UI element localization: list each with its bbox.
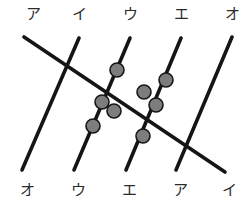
- top-label-2: ウ: [123, 5, 138, 23]
- node-left-upper: [95, 95, 109, 109]
- top-label-1: イ: [72, 5, 87, 23]
- edges-group: [22, 37, 232, 172]
- bottom-labels-group: オウエアイ: [20, 181, 237, 199]
- bottom-label-1: ウ: [71, 181, 86, 199]
- node-upper-center: [110, 63, 124, 77]
- line-b-top-second-to-bottom-left: [22, 38, 79, 170]
- line-e-top-fifth-to-bottom-fourth: [176, 37, 232, 170]
- line-a-top-left-to-bottom-right: [24, 37, 225, 172]
- node-lower-left: [86, 119, 100, 133]
- top-label-4: オ: [225, 5, 240, 23]
- top-labels-group: アイウエオ: [26, 5, 240, 23]
- bottom-label-0: オ: [20, 181, 35, 199]
- bottom-label-2: エ: [122, 181, 137, 199]
- top-label-3: エ: [174, 5, 189, 23]
- bottom-label-3: ア: [173, 181, 188, 199]
- node-center: [137, 85, 151, 99]
- node-right-lower: [149, 98, 163, 112]
- top-label-0: ア: [26, 5, 41, 23]
- diagram-root: アイウエオ オウエアイ: [0, 0, 250, 206]
- bottom-label-4: イ: [222, 181, 237, 199]
- nodes-group: [86, 63, 173, 143]
- node-lower-center: [136, 129, 150, 143]
- node-left-lower: [107, 104, 121, 118]
- node-upper-right: [159, 73, 173, 87]
- crossing-lines-diagram: アイウエオ オウエアイ: [0, 0, 250, 206]
